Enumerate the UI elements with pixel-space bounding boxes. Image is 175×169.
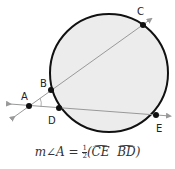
point-b — [48, 87, 54, 93]
label-c: C — [137, 6, 144, 17]
secant-diagram: A B C D E — [0, 0, 175, 169]
angle-mark — [40, 98, 41, 107]
point-c — [140, 22, 146, 28]
arc-ce: CE — [92, 145, 110, 159]
point-d — [56, 105, 62, 111]
arc-bd: BD — [117, 145, 135, 159]
label-e: E — [156, 123, 162, 134]
label-a: A — [21, 91, 28, 102]
label-b: B — [40, 78, 47, 89]
point-a — [26, 103, 32, 109]
point-e — [153, 112, 159, 118]
formula: m∠A = 12(CE BD) — [0, 145, 175, 160]
formula-lhs: m∠A = — [35, 145, 83, 159]
label-d: D — [48, 115, 56, 126]
close-paren: ) — [136, 145, 141, 159]
